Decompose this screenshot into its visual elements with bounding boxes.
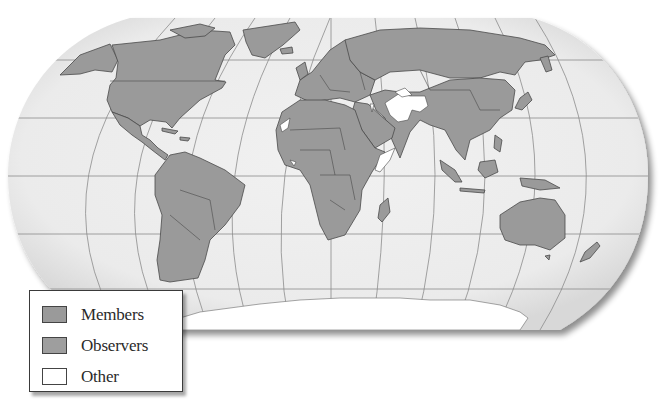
legend-item-observers: Observers: [42, 330, 182, 361]
legend-label-observers: Observers: [81, 336, 148, 356]
legend-label-members: Members: [81, 305, 144, 325]
map-legend: Members Observers Other: [29, 290, 183, 392]
members-swatch: [42, 306, 67, 323]
other-swatch: [42, 368, 67, 385]
legend-item-other: Other: [42, 361, 182, 392]
legend-item-members: Members: [42, 299, 182, 330]
legend-label-other: Other: [81, 367, 119, 387]
observers-swatch: [42, 337, 67, 354]
world-map-figure: Members Observers Other: [0, 0, 662, 408]
hispaniola: [180, 137, 190, 141]
